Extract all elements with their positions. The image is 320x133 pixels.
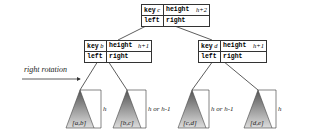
subtree-range: [b,c]	[120, 119, 134, 127]
subtree-range: [d,e]	[250, 119, 264, 127]
subtree-height: h	[103, 105, 107, 113]
subtree-range: [a,b]	[72, 119, 86, 127]
left-node: key bheighth+1 leftright	[84, 40, 152, 63]
right-node: key dheighth+1 leftright	[198, 40, 267, 63]
subtree-height: h or h-1	[211, 105, 234, 113]
root-node: key cheighth+2 leftright	[141, 4, 210, 27]
subtree-height: h	[278, 105, 282, 113]
subtree-range: [c,d]	[183, 119, 197, 127]
rotation-label: right rotation	[24, 65, 67, 74]
subtree-height: h or h-1	[148, 105, 171, 113]
